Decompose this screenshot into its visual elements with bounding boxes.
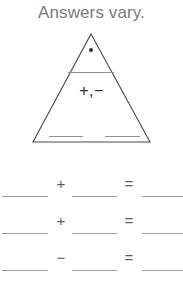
equation-blank-first[interactable] (2, 196, 48, 197)
equation-list: + = + = − = (0, 168, 183, 279)
page-title: Answers vary. (0, 3, 183, 23)
equation-blank-result[interactable] (142, 270, 183, 271)
triangle-blank-top[interactable] (68, 72, 114, 73)
equation-operator: + (51, 176, 71, 191)
fact-family-triangle: +,− (0, 28, 183, 148)
equation-row: − = (0, 242, 183, 279)
equation-row: + = (0, 168, 183, 205)
triangle-blank-bottom-left[interactable] (49, 136, 83, 137)
equation-equals-sign: = (119, 176, 139, 191)
equation-blank-first[interactable] (2, 233, 48, 234)
equation-operator: − (51, 250, 71, 265)
equation-blank-second[interactable] (72, 233, 117, 234)
equation-blank-result[interactable] (142, 233, 183, 234)
triangle-blank-bottom-right[interactable] (105, 136, 140, 137)
equation-equals-sign: = (119, 250, 139, 265)
equation-row: + = (0, 205, 183, 242)
equation-blank-first[interactable] (2, 270, 48, 271)
triangle-dot-icon (89, 48, 93, 52)
equation-equals-sign: = (119, 213, 139, 228)
equation-blank-second[interactable] (72, 196, 117, 197)
triangle-operators: +,− (0, 82, 183, 100)
equation-operator: + (51, 213, 71, 228)
equation-blank-second[interactable] (72, 270, 117, 271)
equation-blank-result[interactable] (142, 196, 183, 197)
